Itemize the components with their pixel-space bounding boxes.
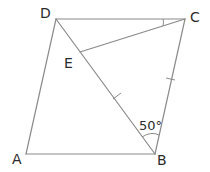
vertex-label-d: D — [40, 5, 51, 21]
geometry-diagram: D C E A B 50° — [0, 0, 210, 172]
segment-db — [56, 19, 155, 154]
angle-arc-c — [163, 19, 164, 26]
vertex-label-c: C — [190, 9, 200, 25]
angle-arc-b — [142, 133, 159, 137]
vertex-label-a: A — [12, 151, 22, 167]
angle-label-b: 50° — [139, 118, 162, 133]
segment-bc — [155, 19, 185, 154]
segment-da — [26, 19, 56, 154]
vertex-label-b: B — [157, 152, 167, 168]
vertex-label-e: E — [64, 55, 73, 71]
tick-mark-eb — [113, 93, 121, 99]
tick-mark-cb — [166, 78, 175, 80]
segment-ec — [80, 19, 185, 52]
